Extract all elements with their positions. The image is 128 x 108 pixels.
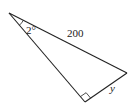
right-angle-marker [80,93,90,99]
hypotenuse-label: 200 [67,28,84,39]
opposite-side-y [85,73,127,102]
hypotenuse-side [9,13,127,73]
right-triangle-diagram [0,0,128,108]
side-y-label: y [110,83,115,94]
angle-arc-marker [19,20,23,25]
angle-label: 2° [26,25,36,36]
